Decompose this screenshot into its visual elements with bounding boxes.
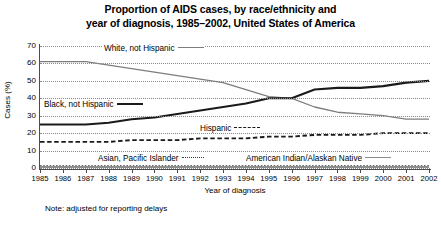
x-axis-tick-labels: 1985198619871988198919901991199219931994… (40, 174, 430, 185)
x-tick-2001 (406, 170, 407, 173)
x-tick-1998 (337, 170, 338, 173)
x-tick-1987 (86, 170, 87, 173)
series-swatch-black (117, 103, 143, 105)
x-tick-1991 (177, 170, 178, 173)
y-axis-title: Cases (%) (4, 70, 12, 130)
gridline-20 (40, 133, 430, 134)
x-tick-1993 (223, 170, 224, 173)
series-label-native: American Indian/Alaskan Native (245, 154, 392, 163)
x-tick-label-2002: 2002 (412, 174, 441, 183)
series-label-native-text: American Indian/Alaskan Native (246, 154, 362, 163)
x-tick-1989 (132, 170, 133, 173)
series-label-hispanic: Hispanic (199, 124, 261, 133)
chart-figure: Proportion of AIDS cases, by race/ethnic… (0, 0, 441, 225)
x-tick-1988 (109, 170, 110, 173)
series-swatch-asian (182, 157, 204, 158)
y-tick-label-20: 20 (12, 129, 36, 137)
series-label-hispanic-text: Hispanic (200, 124, 231, 133)
y-tick-label-70: 70 (12, 42, 36, 50)
plot-area: White, not Hispanic Black, not Hispanic … (40, 46, 430, 168)
y-tick-label-10: 10 (12, 147, 36, 155)
line-white-not-hispanic (40, 62, 429, 120)
x-tick-2002 (429, 170, 430, 173)
gridline-60 (40, 63, 430, 64)
series-swatch-hispanic (234, 127, 260, 128)
series-label-asian: Asian, Pacific Islander (97, 154, 205, 163)
chart-title-line-2: year of diagnosis, 1985–2002, United Sta… (0, 17, 441, 31)
x-axis-title: Year of diagnosis (40, 186, 430, 195)
x-tick-1985 (40, 170, 41, 173)
y-tick-label-30: 30 (12, 112, 36, 120)
x-tick-1986 (63, 170, 64, 173)
y-tick-label-50: 50 (12, 77, 36, 85)
x-tick-1996 (292, 170, 293, 173)
series-label-white-text: White, not Hispanic (104, 44, 175, 53)
series-label-black: Black, not Hispanic (43, 100, 144, 109)
gridline-0 (40, 168, 430, 169)
x-tick-1992 (200, 170, 201, 173)
y-tick-label-0: 0 (12, 164, 36, 172)
gridline-50 (40, 81, 430, 82)
gridline-30 (40, 116, 430, 117)
line-hispanic (40, 133, 429, 142)
chart-title: Proportion of AIDS cases, by race/ethnic… (0, 3, 441, 30)
x-tick-1997 (315, 170, 316, 173)
x-tick-1995 (269, 170, 270, 173)
series-label-asian-text: Asian, Pacific Islander (98, 154, 179, 163)
series-swatch-native (365, 157, 391, 158)
x-tick-2000 (383, 170, 384, 173)
gridline-10 (40, 151, 430, 152)
series-label-white: White, not Hispanic (103, 44, 205, 53)
y-tick-label-60: 60 (12, 59, 36, 67)
gridline-70 (40, 46, 430, 47)
x-tick-1999 (360, 170, 361, 173)
x-tick-1994 (246, 170, 247, 173)
x-tick-1990 (154, 170, 155, 173)
y-tick-label-40: 40 (12, 94, 36, 102)
chart-note: Note: adjusted for reporting delays (45, 204, 167, 213)
series-label-black-text: Black, not Hispanic (44, 100, 114, 109)
chart-title-line-1: Proportion of AIDS cases, by race/ethnic… (0, 3, 441, 17)
series-swatch-white (178, 47, 204, 48)
